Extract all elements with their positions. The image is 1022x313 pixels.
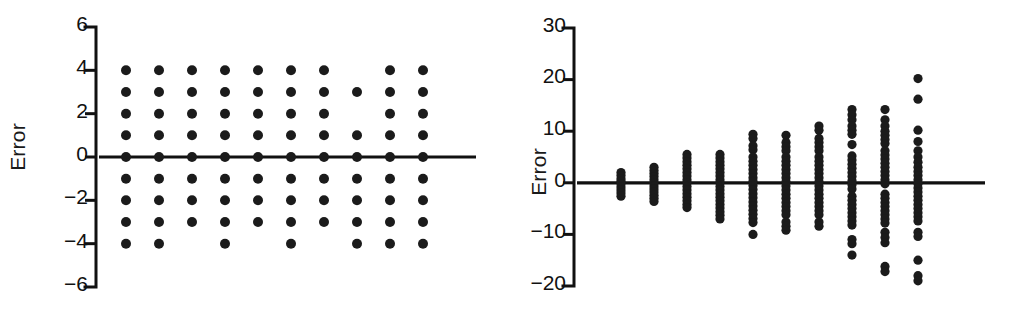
- data-point: [220, 87, 230, 97]
- data-point: [121, 152, 131, 162]
- data-point: [748, 230, 757, 239]
- data-point: [385, 152, 395, 162]
- y-axis-tick-label: −10: [496, 219, 566, 243]
- data-point: [319, 87, 329, 97]
- data-point: [352, 152, 362, 162]
- data-point: [319, 195, 329, 205]
- data-point: [286, 130, 296, 140]
- y-axis-tick-label: 20: [496, 64, 566, 88]
- data-point: [319, 217, 329, 227]
- data-point: [286, 217, 296, 227]
- data-point: [880, 267, 889, 276]
- data-point: [715, 214, 724, 223]
- data-point: [286, 174, 296, 184]
- data-point: [913, 74, 922, 83]
- data-point: [187, 174, 197, 184]
- data-point: [814, 222, 823, 231]
- data-point: [187, 152, 197, 162]
- data-point: [319, 152, 329, 162]
- data-point: [121, 130, 131, 140]
- data-point: [913, 95, 922, 104]
- data-point: [385, 174, 395, 184]
- data-point: [385, 239, 395, 249]
- data-point: [220, 195, 230, 205]
- data-point: [154, 65, 164, 75]
- data-point: [418, 152, 428, 162]
- data-point: [880, 105, 889, 114]
- data-point: [286, 239, 296, 249]
- chart-panel-right: Error 3020100−10−20: [511, 0, 1022, 313]
- data-point: [847, 130, 856, 139]
- data-point: [154, 195, 164, 205]
- data-point: [187, 109, 197, 119]
- data-point: [121, 65, 131, 75]
- data-point: [220, 109, 230, 119]
- data-point: [913, 256, 922, 265]
- data-point: [649, 197, 658, 206]
- data-point: [154, 109, 164, 119]
- data-point: [385, 109, 395, 119]
- figure-container: Error 6420−2−4−6 Error 3020100−10−20: [0, 0, 1022, 313]
- plot-area-right: [511, 0, 1022, 313]
- data-point: [220, 152, 230, 162]
- data-point: [385, 130, 395, 140]
- data-point: [253, 195, 263, 205]
- data-point: [253, 87, 263, 97]
- data-point: [253, 217, 263, 227]
- data-point: [253, 130, 263, 140]
- y-axis-tick-label: −2: [18, 185, 88, 209]
- data-point: [913, 232, 922, 241]
- data-point: [121, 195, 131, 205]
- data-point: [220, 217, 230, 227]
- data-point: [847, 250, 856, 259]
- data-point: [286, 152, 296, 162]
- data-point: [121, 87, 131, 97]
- y-axis-tick-label: 0: [496, 168, 566, 192]
- data-point: [385, 87, 395, 97]
- data-point: [913, 126, 922, 135]
- y-axis-tick-label: 6: [18, 12, 88, 36]
- data-point: [121, 217, 131, 227]
- chart-panel-left: Error 6420−2−4−6: [0, 0, 511, 313]
- data-point: [187, 130, 197, 140]
- data-point: [187, 195, 197, 205]
- data-point: [880, 218, 889, 227]
- data-point: [352, 130, 362, 140]
- data-point: [913, 276, 922, 285]
- data-point: [121, 109, 131, 119]
- data-point: [319, 65, 329, 75]
- data-point: [880, 179, 889, 188]
- data-point: [154, 152, 164, 162]
- data-point: [253, 174, 263, 184]
- y-axis-tick-label: −20: [496, 271, 566, 295]
- data-point: [748, 218, 757, 227]
- data-point: [319, 174, 329, 184]
- data-point: [847, 239, 856, 248]
- data-point: [913, 216, 922, 225]
- data-point: [121, 239, 131, 249]
- data-point: [418, 109, 428, 119]
- data-point-group: [616, 74, 922, 285]
- y-axis-tick-label: 0: [18, 142, 88, 166]
- data-point: [418, 87, 428, 97]
- data-point: [847, 140, 856, 149]
- data-point: [286, 87, 296, 97]
- data-point: [418, 217, 428, 227]
- data-point: [187, 65, 197, 75]
- data-point: [220, 65, 230, 75]
- data-point: [847, 221, 856, 230]
- data-point: [253, 109, 263, 119]
- data-point: [220, 239, 230, 249]
- y-axis-tick-label: 4: [18, 55, 88, 79]
- data-point: [220, 130, 230, 140]
- data-point: [154, 239, 164, 249]
- data-point: [682, 203, 691, 212]
- data-point: [352, 239, 362, 249]
- data-point: [253, 152, 263, 162]
- data-point: [913, 137, 922, 146]
- data-point: [352, 195, 362, 205]
- data-point: [220, 174, 230, 184]
- y-axis-tick-label: −6: [18, 272, 88, 296]
- data-point: [154, 87, 164, 97]
- data-point: [418, 239, 428, 249]
